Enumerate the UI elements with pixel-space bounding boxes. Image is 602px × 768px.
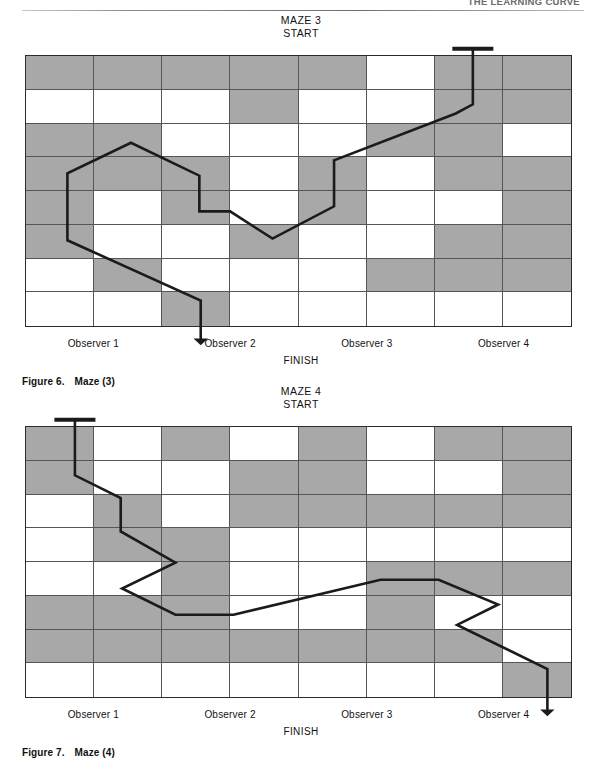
maze-cell — [162, 90, 230, 124]
maze-3-grid — [25, 55, 572, 327]
maze-cell — [367, 528, 435, 562]
maze-cell — [230, 528, 298, 562]
maze-cell — [435, 528, 503, 562]
maze-4-caption-text: Maze (4) — [75, 747, 115, 758]
maze-cell — [503, 562, 571, 596]
maze-cell — [162, 259, 230, 293]
maze-cell — [230, 157, 298, 191]
observer-label-1: Observer 1 — [25, 338, 162, 349]
running-header: THE LEARNING CURVE — [468, 0, 580, 7]
maze-cell — [503, 461, 571, 495]
maze-cell — [503, 90, 571, 124]
maze-cell — [503, 259, 571, 293]
maze-cell — [503, 191, 571, 225]
maze-cell — [299, 259, 367, 293]
maze-cell — [299, 56, 367, 90]
maze-cell — [435, 124, 503, 158]
maze-cell — [435, 225, 503, 259]
observer-label-1: Observer 1 — [25, 709, 162, 720]
maze-cell — [162, 461, 230, 495]
maze-cell — [26, 56, 94, 90]
maze-cell — [503, 630, 571, 664]
maze-cell — [367, 495, 435, 529]
maze-cell — [230, 461, 298, 495]
maze-cell — [162, 56, 230, 90]
maze-cell — [367, 630, 435, 664]
maze-cell — [94, 528, 162, 562]
maze-cell — [94, 259, 162, 293]
maze-cell — [162, 630, 230, 664]
maze-cell — [94, 596, 162, 630]
maze-cell — [367, 225, 435, 259]
maze-cell — [435, 56, 503, 90]
maze-cell — [367, 124, 435, 158]
maze-cell — [299, 663, 367, 697]
maze-cell — [26, 225, 94, 259]
maze-cell — [299, 427, 367, 461]
maze-cell — [435, 90, 503, 124]
maze-cell — [503, 56, 571, 90]
maze-3-finish-label: FINISH — [0, 355, 602, 366]
maze-cell — [367, 292, 435, 326]
maze-cell — [230, 630, 298, 664]
maze-cell — [26, 528, 94, 562]
maze-cell — [162, 495, 230, 529]
maze-cell — [94, 191, 162, 225]
maze-cell — [299, 461, 367, 495]
maze-cell — [230, 495, 298, 529]
observer-label-3: Observer 3 — [299, 709, 436, 720]
maze-cell — [299, 292, 367, 326]
maze-cell — [162, 562, 230, 596]
maze-cell — [367, 427, 435, 461]
maze-cell — [299, 562, 367, 596]
document-page: THE LEARNING CURVE MAZE 3 START Observer… — [0, 0, 602, 768]
maze-cell — [26, 292, 94, 326]
maze-4-observer-row: Observer 1 Observer 2 Observer 3 Observe… — [25, 709, 572, 720]
maze-4-caption: Figure 7.Maze (4) — [22, 747, 115, 758]
maze-cell — [503, 292, 571, 326]
maze-cell — [230, 225, 298, 259]
maze-cell — [94, 427, 162, 461]
maze-cell — [299, 191, 367, 225]
maze-cell — [367, 596, 435, 630]
maze-cell — [299, 495, 367, 529]
observer-label-2: Observer 2 — [162, 709, 299, 720]
maze-cell — [94, 292, 162, 326]
maze-cell — [435, 596, 503, 630]
figure-maze-3: MAZE 3 START Observer 1 Observer 2 Obser… — [0, 14, 602, 389]
maze-cell — [503, 427, 571, 461]
maze-cell — [435, 427, 503, 461]
maze-cell — [26, 630, 94, 664]
maze-cell — [26, 157, 94, 191]
maze-cell — [435, 495, 503, 529]
maze-cell — [162, 292, 230, 326]
maze-cell — [162, 191, 230, 225]
observer-label-3: Observer 3 — [299, 338, 436, 349]
maze-cell — [299, 90, 367, 124]
maze-cell — [26, 427, 94, 461]
maze-4-grid — [25, 426, 572, 698]
maze-cell — [503, 663, 571, 697]
maze-cell — [299, 225, 367, 259]
maze-cell — [503, 225, 571, 259]
maze-cell — [26, 124, 94, 158]
maze-cell — [26, 562, 94, 596]
maze-cell — [162, 225, 230, 259]
maze-3-title: MAZE 3 START — [0, 14, 602, 40]
maze-cell — [367, 191, 435, 225]
maze-cell — [367, 259, 435, 293]
maze-cell — [503, 596, 571, 630]
maze-cell — [94, 630, 162, 664]
maze-cell — [94, 56, 162, 90]
maze-cell — [230, 427, 298, 461]
maze-4-grid-wrap — [25, 426, 572, 698]
maze-cell — [162, 663, 230, 697]
maze-cell — [94, 90, 162, 124]
maze-cell — [26, 259, 94, 293]
maze-cell — [435, 191, 503, 225]
maze-cell — [435, 461, 503, 495]
maze-cell — [367, 562, 435, 596]
maze-cell — [26, 596, 94, 630]
figure-maze-4: MAZE 4 START Observer 1 Observer 2 Obser… — [0, 385, 602, 760]
maze-cell — [26, 461, 94, 495]
